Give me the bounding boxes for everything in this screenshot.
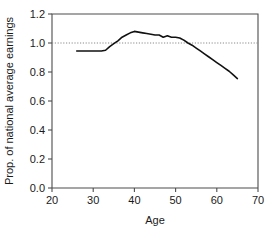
y-tick-label: 1.0	[30, 37, 45, 49]
y-tick-label: 1.2	[30, 8, 45, 20]
plot-frame	[52, 14, 258, 188]
x-tick-label: 60	[211, 194, 223, 206]
x-tick-label: 20	[46, 194, 58, 206]
y-tick-label: 0.6	[30, 95, 45, 107]
x-tick-label: 40	[128, 194, 140, 206]
line-chart: 0.00.20.40.60.81.01.2203040506070 Age Pr…	[0, 0, 277, 236]
y-tick-label: 0.4	[30, 124, 45, 136]
x-tick-label: 50	[169, 194, 181, 206]
x-tick-label: 30	[87, 194, 99, 206]
y-tick-label: 0.2	[30, 153, 45, 165]
x-axis-title: Age	[145, 214, 165, 226]
data-series-line	[77, 31, 238, 78]
chart-figure: 0.00.20.40.60.81.01.2203040506070 Age Pr…	[0, 0, 277, 236]
x-tick-label: 70	[252, 194, 264, 206]
y-axis-title: Prop. of national average earnings	[3, 16, 15, 185]
y-tick-label: 0.8	[30, 66, 45, 78]
y-tick-label: 0.0	[30, 182, 45, 194]
